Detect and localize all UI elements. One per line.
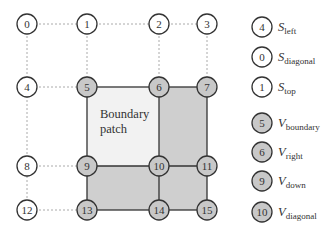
node-label: 4 [24, 81, 30, 93]
legend-label: Vboundary [278, 116, 320, 132]
legend-node-4: 4 [252, 17, 272, 37]
legend-label: Vright [278, 145, 303, 161]
patch-label-line1: Boundary [100, 107, 150, 121]
grid-node-0: 0 [17, 14, 37, 34]
grid-node-6: 6 [149, 77, 169, 97]
patch-label-line2: patch [100, 122, 128, 136]
node-label: 3 [204, 18, 210, 30]
legend-label: Vdiagonal [278, 205, 317, 221]
grid-node-13: 13 [77, 200, 97, 220]
legend-node-1: 1 [252, 77, 272, 97]
node-label: 9 [84, 160, 90, 172]
right-region [159, 87, 207, 210]
node-label: 4 [259, 21, 265, 33]
node-label: 2 [156, 18, 162, 30]
legend-node-0: 0 [252, 47, 272, 67]
grid-node-2: 2 [149, 14, 169, 34]
grid-node-14: 14 [149, 200, 169, 220]
node-label: 7 [204, 81, 210, 93]
node-label: 5 [84, 81, 90, 93]
grid-node-11: 11 [197, 156, 217, 176]
node-label: 15 [202, 204, 214, 216]
node-label: 10 [154, 160, 166, 172]
node-label: 5 [259, 117, 265, 129]
legend-node-6: 6 [252, 142, 272, 162]
legend-label: Vdown [278, 174, 306, 190]
legend-node-9: 9 [252, 171, 272, 191]
node-label: 6 [259, 146, 265, 158]
node-label: 12 [22, 204, 33, 216]
grid-node-4: 4 [17, 77, 37, 97]
node-label: 11 [202, 160, 213, 172]
grid-node-5: 5 [77, 77, 97, 97]
boundary-patch-diagram: Boundary patch 0123456789101112131415 4S… [0, 0, 329, 235]
node-label: 0 [24, 18, 30, 30]
node-label: 14 [154, 204, 166, 216]
node-label: 1 [259, 81, 265, 93]
grid-node-15: 15 [197, 200, 217, 220]
grid-node-9: 9 [77, 156, 97, 176]
down-region [87, 166, 159, 210]
node-label: 13 [82, 204, 94, 216]
grid-node-10: 10 [149, 156, 169, 176]
node-label: 0 [259, 51, 265, 63]
grid-node-1: 1 [77, 14, 97, 34]
node-label: 6 [156, 81, 162, 93]
grid-node-8: 8 [17, 156, 37, 176]
legend-label: Sdiagonal [278, 50, 316, 66]
legend-label: Sleft [278, 20, 297, 36]
node-label: 9 [259, 175, 265, 187]
legend-node-10: 10 [252, 202, 272, 222]
grid-node-3: 3 [197, 14, 217, 34]
node-label: 1 [84, 18, 90, 30]
node-label: 10 [257, 206, 269, 218]
node-label: 8 [24, 160, 30, 172]
legend: 4Sleft0Sdiagonal1Stop5Vboundary6Vright9V… [252, 17, 320, 222]
grid-node-7: 7 [197, 77, 217, 97]
legend-node-5: 5 [252, 113, 272, 133]
legend-label: Stop [278, 80, 296, 96]
grid-node-12: 12 [17, 200, 37, 220]
